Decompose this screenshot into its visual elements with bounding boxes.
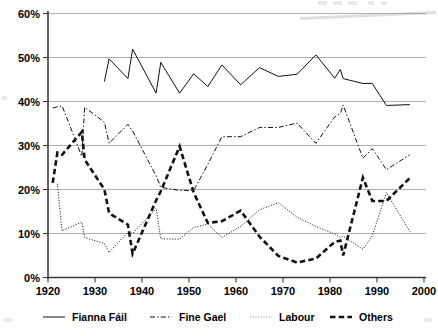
x-tick-label: 1970 <box>271 285 295 297</box>
legend-item-others[interactable]: Others <box>330 311 393 323</box>
x-tick-label: 2000 <box>412 285 436 297</box>
legend-item-labour[interactable]: Labour <box>250 311 315 323</box>
y-tick-label: 50% <box>18 52 40 64</box>
legend-item-fine-gael[interactable]: Fine Gael <box>150 311 226 323</box>
series-line-fine-gael <box>53 105 410 190</box>
x-tick-label: 1930 <box>83 285 107 297</box>
scan-artifact <box>2 1 436 322</box>
y-tick-label: 20% <box>18 184 40 196</box>
x-tick-label: 1940 <box>130 285 154 297</box>
y-tick-label: 10% <box>18 228 40 240</box>
y-axis-tick-labels: 0%10%20%30%40%50%60% <box>18 8 40 284</box>
data-series-group <box>53 49 410 262</box>
legend-item-fianna-f-il[interactable]: Fianna Fáil <box>43 311 127 323</box>
election-results-line-chart: 0%10%20%30%40%50%60% 1920193019401950196… <box>0 0 438 336</box>
gridlines <box>48 14 426 234</box>
series-line-others <box>53 132 410 263</box>
x-tick-label: 1920 <box>36 285 60 297</box>
chart-container: 0%10%20%30%40%50%60% 1920193019401950196… <box>0 0 438 336</box>
y-tick-label: 30% <box>18 140 40 152</box>
legend-label: Labour <box>279 311 315 323</box>
x-tick-label: 1950 <box>177 285 201 297</box>
series-line-labour <box>57 184 410 253</box>
x-tick-label: 1990 <box>365 285 389 297</box>
legend-label: Others <box>359 311 393 323</box>
y-tick-label: 60% <box>18 8 40 20</box>
legend-label: Fine Gael <box>179 311 226 323</box>
y-tick-label: 40% <box>18 96 40 108</box>
x-tick-label: 1980 <box>318 285 342 297</box>
legend-label: Fianna Fáil <box>72 311 127 323</box>
y-tick-label: 0% <box>24 272 40 284</box>
chart-legend: Fianna FáilFine GaelLabourOthers <box>43 311 393 323</box>
x-tick-label: 1960 <box>224 285 248 297</box>
x-axis-tick-labels: 192019301940195019601970198019902000 <box>36 285 436 297</box>
